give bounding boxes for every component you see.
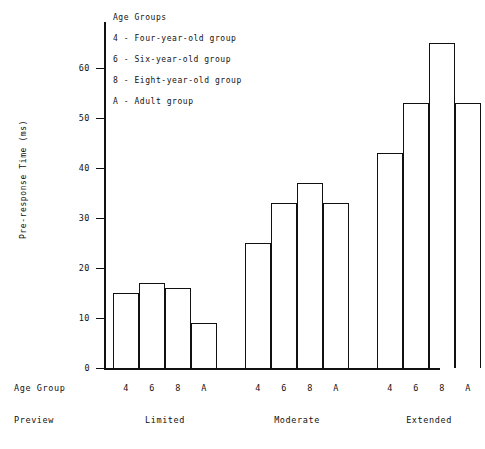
x-tick-label-limited-8: 8 [165, 383, 191, 393]
y-tick-label-60: 60 [56, 63, 90, 73]
y-tick-0 [96, 368, 104, 369]
preview-row-title: Preview [14, 415, 54, 425]
age-group-row-title: Age Group [14, 383, 65, 393]
x-tick-label-limited-4: 4 [113, 383, 139, 393]
bar-limited-6 [139, 283, 165, 368]
condition-label-extended: Extended [355, 415, 485, 425]
x-tick-label-extended-8: 8 [429, 383, 455, 393]
legend-item-8: 8 - Eight-year-old group [113, 77, 242, 85]
x-tick-label-extended-4: 4 [377, 383, 403, 393]
condition-label-moderate: Moderate [223, 415, 371, 425]
x-tick-label-extended-a: A [455, 383, 481, 393]
y-tick-label-30: 30 [56, 213, 90, 223]
bar-moderate-4 [245, 243, 271, 368]
y-tick-40 [96, 168, 104, 169]
y-tick-20 [96, 268, 104, 269]
bar-limited-4 [113, 293, 139, 368]
x-tick-label-extended-6: 6 [403, 383, 429, 393]
y-axis-line [104, 22, 106, 369]
legend-item-a: A - Adult group [113, 98, 242, 106]
x-tick-label-moderate-a: A [323, 383, 349, 393]
y-tick-label-20: 20 [56, 263, 90, 273]
legend-title: Age Groups [113, 14, 242, 22]
y-tick-label-40: 40 [56, 163, 90, 173]
x-tick-label-moderate-4: 4 [245, 383, 271, 393]
x-tick-label-limited-6: 6 [139, 383, 165, 393]
y-tick-60 [96, 68, 104, 69]
y-tick-label-50: 50 [56, 113, 90, 123]
bar-moderate-a [323, 203, 349, 368]
bar-moderate-8 [297, 183, 323, 368]
legend: Age Groups 4 - Four-year-old group 6 - S… [113, 14, 242, 119]
y-axis-label: Pre-response Time (ms) [19, 95, 28, 265]
legend-item-4: 4 - Four-year-old group [113, 35, 242, 43]
condition-label-limited: Limited [91, 415, 239, 425]
bar-extended-8 [429, 43, 455, 368]
y-tick-30 [96, 218, 104, 219]
bar-extended-4 [377, 153, 403, 368]
bar-extended-a [455, 103, 481, 368]
bar-extended-6 [403, 103, 429, 368]
y-tick-10 [96, 318, 104, 319]
x-tick-label-limited-a: A [191, 383, 217, 393]
x-tick-label-moderate-6: 6 [271, 383, 297, 393]
x-axis-line [104, 368, 440, 370]
bar-limited-a [191, 323, 217, 368]
y-tick-label-10: 10 [56, 313, 90, 323]
legend-item-6: 6 - Six-year-old group [113, 56, 242, 64]
x-tick-label-moderate-8: 8 [297, 383, 323, 393]
bar-limited-8 [165, 288, 191, 368]
y-tick-50 [96, 118, 104, 119]
y-tick-label-0: 0 [56, 363, 90, 373]
bar-moderate-6 [271, 203, 297, 368]
